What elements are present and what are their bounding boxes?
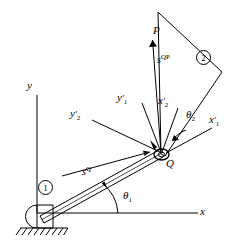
- theta-2-sub: 2: [191, 115, 195, 123]
- y1-prime-sub: 1: [124, 98, 128, 106]
- x-axis-label: x: [200, 206, 205, 217]
- theta-1-arrowhead: [102, 182, 107, 189]
- x1-prime-label: x′1: [209, 114, 219, 128]
- y-axis-label: y: [27, 80, 32, 91]
- body-two-number: 2: [196, 50, 211, 65]
- pivot-block: [37, 205, 53, 228]
- theta-1-label: θ1: [123, 190, 132, 204]
- figure-canvas: y x 1 2 P Q sQ sQP y′2 y′1 x′2 x′1 θ1 θ2: [0, 0, 233, 245]
- point-p-label: P: [153, 25, 160, 36]
- body-two-outline: [158, 12, 222, 156]
- y2-prime-label: y′2: [70, 108, 80, 122]
- point-q-label: Q: [166, 158, 174, 169]
- theta-1-arc: [102, 183, 118, 213]
- x2-prime-label: x′2: [158, 95, 168, 109]
- y1-prime-label: y′1: [117, 92, 127, 106]
- ground-hatching: [16, 228, 68, 235]
- body-one-number: 1: [38, 180, 53, 195]
- frame-arrowhead: [150, 140, 157, 150]
- diagram-vector-layer: [0, 0, 233, 245]
- theta-1-sub: 1: [128, 196, 132, 204]
- theta-2-label: θ2: [186, 109, 195, 123]
- y2-prime-axis: [92, 120, 160, 152]
- s-Q-vector: [62, 151, 150, 177]
- x2-prime-axis: [162, 108, 178, 152]
- s-QP-label: sQP: [157, 54, 170, 65]
- s-Q-sup: Q: [86, 165, 91, 173]
- y2-prime-sub: 2: [77, 114, 81, 122]
- s-QP-sup: QP: [161, 53, 170, 61]
- link-one-centerline: [42, 154, 161, 220]
- x2-prime-sub: 2: [165, 101, 169, 109]
- theta-2-arrowhead: [172, 135, 179, 141]
- s-Q-label: sQ: [82, 166, 91, 177]
- x1-prime-sub: 1: [216, 120, 220, 128]
- pivot-half-circle: [25, 205, 37, 228]
